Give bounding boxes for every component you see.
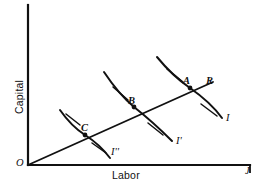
diagram-canvas xyxy=(0,0,263,188)
isoquant-i-prime-tangent-tick-upper xyxy=(113,87,128,100)
point-label-a: A xyxy=(183,76,190,87)
labor-axis-label: Labor xyxy=(112,170,140,181)
ray-label-r: R xyxy=(206,76,213,87)
capital-axis-label: Capital xyxy=(14,80,25,114)
x-axis-end-label: J xyxy=(245,166,250,177)
isoquant-i-tangent-tick-upper xyxy=(167,69,183,82)
isoquant-i-prime-curve xyxy=(104,72,172,141)
origin-label: O xyxy=(16,158,24,169)
curve-label-i: I xyxy=(226,113,230,124)
isoquant-diagram: Capital Labor O J R A B C I I' I'' xyxy=(0,0,263,188)
curve-label-i-prime: I' xyxy=(176,136,182,147)
point-label-c: C xyxy=(81,123,88,134)
point-label-b: B xyxy=(128,96,135,107)
curve-label-i-double-prime: I'' xyxy=(111,147,119,158)
